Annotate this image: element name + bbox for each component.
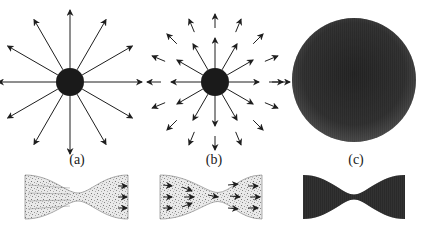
radial-arrow-icon [34, 20, 63, 70]
nozzle-a-speckled [25, 175, 128, 219]
inner-arrow-icon [227, 60, 253, 75]
label-b: (b) [206, 152, 222, 168]
diagram-canvas [0, 0, 432, 228]
label-a: (a) [69, 152, 85, 168]
outer-arrow-icon [152, 56, 165, 61]
outer-arrow-icon [265, 56, 278, 61]
radial-arrow-icon [34, 94, 63, 144]
radial-arrow-icon [77, 94, 106, 144]
inner-arrow-icon [193, 94, 208, 120]
inner-arrow-icon [193, 44, 208, 70]
outer-arrow-icon [253, 34, 263, 44]
radial-arrow-icon [82, 89, 132, 118]
inner-arrow-icon [177, 60, 203, 75]
nozzle-b-with-arrows [160, 175, 262, 219]
outer-arrow-icon [152, 103, 165, 108]
nozzle-c-dense [303, 175, 405, 219]
inner-arrow-icon [222, 44, 237, 70]
outer-arrow-icon [236, 19, 241, 32]
label-c: (c) [348, 152, 364, 168]
panel-b-two-stage-emission [147, 14, 290, 150]
inner-arrow-icon [227, 89, 253, 104]
radial-arrow-icon [8, 46, 58, 75]
source-sphere [201, 68, 229, 96]
inner-arrow-icon [177, 89, 203, 104]
nozzle-shape [160, 175, 262, 219]
panel-a-radial-emission [0, 10, 142, 154]
radial-arrow-icon [82, 46, 132, 75]
inner-arrow-icon [222, 94, 237, 120]
panel-c-dense-sphere [292, 18, 416, 142]
outer-arrow-icon [167, 120, 177, 130]
radial-arrow-icon [77, 20, 106, 70]
outer-arrow-icon [189, 132, 194, 145]
outer-arrow-icon [189, 19, 194, 32]
outer-arrow-icon [236, 132, 241, 145]
dense-sphere-texture [292, 18, 416, 142]
nozzle-texture [303, 175, 405, 219]
outer-arrow-icon [253, 120, 263, 130]
source-sphere [56, 68, 84, 96]
radial-arrow-icon [8, 89, 58, 118]
outer-arrow-icon [265, 103, 278, 108]
outer-arrow-icon [167, 34, 177, 44]
nozzle-shape [25, 175, 128, 219]
